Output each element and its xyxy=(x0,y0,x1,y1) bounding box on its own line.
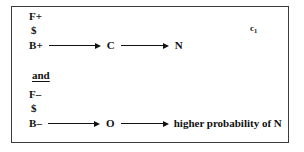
down-arrow-icon: $ xyxy=(31,25,37,36)
bottom-chain-node-1: B– xyxy=(29,118,42,129)
connector-row: and xyxy=(32,70,50,81)
bottom-factor-row: F– xyxy=(29,89,41,100)
bottom-factor-label: F– xyxy=(29,89,41,100)
top-chain-node-2: C xyxy=(107,40,115,51)
top-chain-node-1: B+ xyxy=(29,40,43,51)
arrow-right-icon xyxy=(121,42,169,49)
bottom-chain-node-3: higher probability of N xyxy=(174,118,282,129)
top-chain-row: B+ C N xyxy=(29,40,183,51)
top-chain-node-3: N xyxy=(175,40,183,51)
arrow-right-icon xyxy=(49,42,101,49)
top-factor-row: F+ xyxy=(29,11,42,22)
figure-frame: c1 F+ $ B+ C N and F– xyxy=(11,6,289,143)
condition-label-subscript: 1 xyxy=(254,27,257,34)
top-factor-label: F+ xyxy=(29,11,42,22)
bottom-chain-node-2: O xyxy=(106,118,115,129)
bottom-down-arrow-row: $ xyxy=(31,103,37,114)
arrow-right-icon xyxy=(48,120,100,127)
connector-label: and xyxy=(32,70,50,81)
bottom-chain-row: B– O higher probability of N xyxy=(29,118,282,129)
top-down-arrow-row: $ xyxy=(31,25,37,36)
down-arrow-icon: $ xyxy=(31,103,37,114)
arrow-right-icon xyxy=(121,120,169,127)
condition-label: c1 xyxy=(250,24,257,33)
